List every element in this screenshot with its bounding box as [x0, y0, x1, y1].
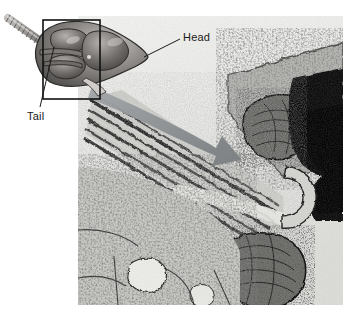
tail-leader-line [40, 47, 54, 107]
label-head: Head [183, 31, 210, 43]
micrograph-panel [78, 16, 343, 305]
figure-root: Head Tail [0, 0, 356, 318]
label-tail: Tail [27, 110, 44, 122]
micrograph-image [78, 16, 343, 305]
sperm-tail-shape [6, 15, 56, 55]
